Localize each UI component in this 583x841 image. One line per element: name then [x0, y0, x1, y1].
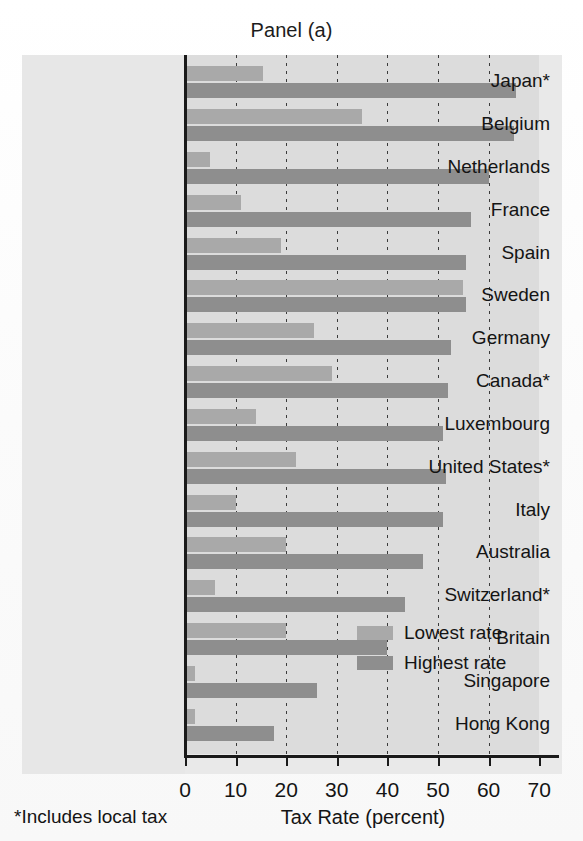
bar-lowest-rate	[185, 366, 332, 381]
bar-lowest-rate	[185, 409, 256, 424]
legend-swatch-lowest-icon	[357, 626, 393, 640]
category-label: France	[400, 199, 550, 221]
x-axis-tick-label: 10	[216, 778, 256, 802]
bar-highest-rate	[185, 554, 423, 569]
x-axis-label: Tax Rate (percent)	[163, 806, 563, 829]
legend-entry-lowest: Lowest rate	[357, 618, 506, 648]
bar-lowest-rate	[185, 452, 296, 467]
x-axis-tick-label: 70	[519, 778, 559, 802]
x-axis-tick	[236, 755, 238, 766]
x-axis-tick-label: 50	[418, 778, 458, 802]
bar-lowest-rate	[185, 623, 286, 638]
category-label: Luxembourg	[400, 413, 550, 435]
scanned-page: Panel (a) Japan*BelgiumNetherlandsFrance…	[0, 0, 583, 841]
bar-lowest-rate	[185, 195, 241, 210]
bar-lowest-rate	[185, 238, 281, 253]
legend-label-lowest: Lowest rate	[404, 622, 502, 644]
legend-entry-highest: Highest rate	[357, 648, 506, 678]
bar-highest-rate	[185, 726, 274, 741]
x-axis-spine	[184, 755, 559, 758]
chart-legend: Lowest rate Highest rate	[357, 618, 506, 678]
x-axis-tick	[185, 755, 187, 766]
x-axis-tick-label: 20	[266, 778, 306, 802]
x-axis-tick	[489, 755, 491, 766]
category-label-gutter	[22, 55, 185, 774]
x-axis-tick	[286, 755, 288, 766]
category-label: Sweden	[400, 284, 550, 306]
bar-lowest-rate	[185, 152, 210, 167]
category-label: Belgium	[400, 113, 550, 135]
x-axis-tick-label: 0	[165, 778, 205, 802]
bar-lowest-rate	[185, 66, 263, 81]
x-axis-tick-label: 40	[367, 778, 407, 802]
bar-lowest-rate	[185, 495, 236, 510]
x-axis-tick-label: 60	[469, 778, 509, 802]
legend-swatch-highest-icon	[357, 656, 393, 670]
bar-lowest-rate	[185, 109, 362, 124]
category-label: Netherlands	[400, 156, 550, 178]
category-label: Hong Kong	[400, 713, 550, 735]
category-label: Italy	[400, 499, 550, 521]
bar-lowest-rate	[185, 537, 286, 552]
category-label: Spain	[400, 242, 550, 264]
bar-lowest-rate	[185, 323, 314, 338]
footnote: *Includes local tax	[14, 806, 167, 828]
x-axis-tick	[539, 755, 541, 766]
x-axis-tick	[337, 755, 339, 766]
category-label: Germany	[400, 327, 550, 349]
x-axis-tick-label: 30	[317, 778, 357, 802]
x-axis-tick	[438, 755, 440, 766]
bar-lowest-rate	[185, 666, 195, 681]
category-label: Australia	[400, 541, 550, 563]
page-title: Panel (a)	[0, 19, 583, 42]
y-axis-spine	[184, 55, 187, 757]
bar-lowest-rate	[185, 580, 215, 595]
bar-highest-rate	[185, 597, 405, 612]
category-label: Japan*	[400, 70, 550, 92]
category-label: Canada*	[400, 370, 550, 392]
bar-lowest-rate	[185, 709, 195, 724]
x-axis-tick	[387, 755, 389, 766]
legend-label-highest: Highest rate	[404, 652, 506, 674]
bar-highest-rate	[185, 683, 317, 698]
category-label: United States*	[400, 456, 550, 478]
category-label: Switzerland*	[400, 584, 550, 606]
